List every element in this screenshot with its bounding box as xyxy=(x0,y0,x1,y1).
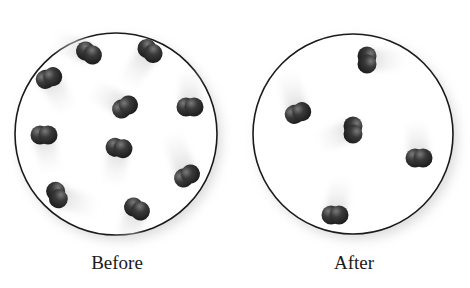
diatomic-molecule xyxy=(177,98,204,117)
gas-molecules-diagram xyxy=(0,0,470,288)
diatomic-molecule xyxy=(322,206,349,225)
atom xyxy=(330,206,349,225)
atom xyxy=(358,55,377,74)
after-panel xyxy=(253,34,457,239)
diatomic-molecule xyxy=(31,126,58,145)
atom xyxy=(185,98,204,117)
before-label: Before xyxy=(91,252,143,274)
diatomic-molecule xyxy=(358,47,377,74)
atom xyxy=(39,126,58,145)
after-label: After xyxy=(334,252,374,274)
diatomic-molecule xyxy=(406,149,433,168)
before-panel xyxy=(15,30,221,250)
atom xyxy=(344,125,363,144)
atom xyxy=(414,149,433,168)
diatomic-molecule xyxy=(344,117,363,144)
